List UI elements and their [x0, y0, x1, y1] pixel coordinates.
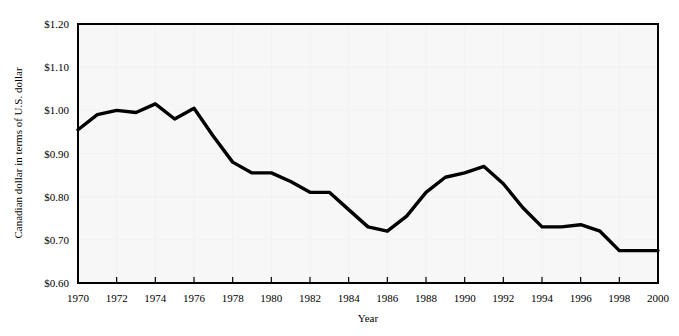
currency-line-chart: $1.20$1.10$1.00$0.90$0.80$0.70$0.60 1970… — [0, 0, 679, 336]
x-tick-label: 1992 — [492, 292, 514, 304]
x-tick-label: 1980 — [260, 292, 283, 304]
x-tick-label: 1970 — [67, 292, 90, 304]
x-tick-label: 1986 — [376, 292, 399, 304]
x-tick-label: 1976 — [183, 292, 206, 304]
x-tick-label: 1998 — [608, 292, 631, 304]
y-tick-label: $0.60 — [44, 277, 69, 289]
x-tick-label: 1990 — [454, 292, 477, 304]
x-tick-label: 1982 — [299, 292, 321, 304]
x-tick-label: 1994 — [531, 292, 554, 304]
y-tick-label: $1.10 — [44, 61, 69, 73]
y-tick-label: $1.20 — [44, 18, 69, 30]
y-tick-label: $0.90 — [44, 148, 69, 160]
y-tick-label: $1.00 — [44, 104, 69, 116]
chart-canvas: $1.20$1.10$1.00$0.90$0.80$0.70$0.60 1970… — [0, 0, 679, 336]
x-tick-label: 1974 — [144, 292, 167, 304]
y-tick-label: $0.80 — [44, 191, 69, 203]
y-tick-label: $0.70 — [44, 234, 69, 246]
x-axis-title: Year — [358, 312, 379, 324]
x-tick-label: 2000 — [647, 292, 670, 304]
x-tick-label: 1988 — [415, 292, 438, 304]
x-tick-label: 1996 — [570, 292, 593, 304]
x-tick-label: 1984 — [338, 292, 361, 304]
x-tick-label: 1972 — [106, 292, 128, 304]
y-axis-title: Canadian dollar in terms of U.S. dollar — [12, 67, 24, 238]
x-tick-label: 1978 — [222, 292, 245, 304]
